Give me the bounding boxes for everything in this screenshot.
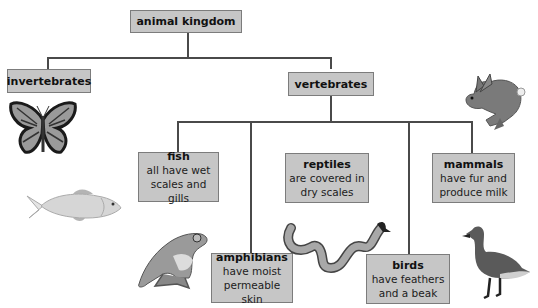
- connector-birds-vertical: [408, 121, 410, 255]
- node-invertebrates: invertebrates: [7, 69, 91, 93]
- node-title: invertebrates: [7, 75, 91, 88]
- node-title: birds: [392, 259, 424, 272]
- node-desc-line2: produce milk: [439, 185, 507, 199]
- node-desc-line1: have fur and: [440, 171, 507, 185]
- node-title: reptiles: [303, 158, 351, 171]
- node-title: animal kingdom: [136, 15, 235, 28]
- goose-icon: [460, 224, 534, 300]
- connector-fish-vertical: [177, 121, 179, 152]
- node-title: fish: [167, 150, 190, 163]
- connector-vertebrates-vertical-top: [330, 57, 332, 69]
- node-mammals: mammals have fur and produce milk: [432, 153, 515, 203]
- connector-top-horizontal: [47, 57, 332, 59]
- connector-invertebrates-vertical: [47, 57, 49, 69]
- butterfly-icon: [7, 100, 79, 158]
- rabbit-icon: [460, 72, 528, 132]
- connector-vertebrates-vertical-bottom: [330, 95, 332, 122]
- node-title: vertebrates: [295, 78, 368, 91]
- node-desc-line1: are covered in: [289, 171, 364, 185]
- node-vertebrates: vertebrates: [288, 72, 374, 96]
- node-desc-line2: and a beak: [379, 286, 438, 300]
- connector-mid-horizontal: [177, 121, 473, 123]
- node-fish: fish all have wet scales and gills: [138, 152, 219, 202]
- node-desc-line2: permeable skin: [212, 278, 292, 306]
- node-title: mammals: [444, 158, 504, 171]
- node-amphibians: amphibians have moist permeable skin: [211, 253, 293, 303]
- connector-root-vertical: [187, 32, 189, 58]
- node-title: amphibians: [216, 251, 288, 264]
- fish-icon: [25, 186, 125, 224]
- node-desc-line2: scales and gills: [139, 177, 218, 205]
- node-desc-line1: have moist: [223, 264, 281, 278]
- node-desc-line1: all have wet: [147, 163, 211, 177]
- node-animal-kingdom: animal kingdom: [130, 10, 242, 33]
- connector-amphibians-vertical: [250, 121, 252, 253]
- snake-icon: [283, 218, 393, 276]
- node-desc-line2: dry scales: [300, 185, 353, 199]
- frog-icon: [133, 226, 213, 296]
- node-reptiles: reptiles are covered in dry scales: [285, 153, 369, 203]
